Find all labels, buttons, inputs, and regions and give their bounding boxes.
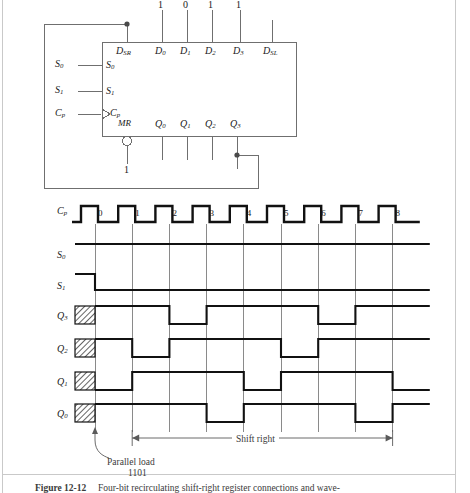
data-input-value-d3: 1 xyxy=(236,0,241,10)
pin-label-dsr: DSR xyxy=(116,46,131,57)
timing-gridlines xyxy=(95,224,393,432)
circuit-diagram xyxy=(0,0,470,200)
timing-row-label-q2: Q2 xyxy=(57,344,68,355)
pin-label-d2: D2 xyxy=(205,46,216,57)
timing-row-label-q3: Q3 xyxy=(57,311,68,322)
clock-pulse-number-5: 5 xyxy=(284,209,289,218)
timing-diagram xyxy=(0,198,470,493)
mr-bubble-icon xyxy=(123,137,132,146)
timing-row-label-q0: Q0 xyxy=(57,409,68,420)
timing-waveforms xyxy=(72,206,430,422)
feedback-wire xyxy=(44,24,258,188)
annotation-shift-right: Shift right xyxy=(232,435,279,445)
data-input-value-d2: 1 xyxy=(208,0,213,10)
annotation-parallel-load: Parallel load xyxy=(107,458,155,468)
figure-caption-label: Figure 12-12 xyxy=(35,483,86,493)
clock-pulse-number-7: 7 xyxy=(358,209,363,218)
timing-row-label-s1: S1 xyxy=(57,281,65,292)
data-input-value-d1: 0 xyxy=(183,0,188,10)
pin-label-d1: D1 xyxy=(180,46,191,57)
pin-label-d3: D3 xyxy=(233,46,244,57)
pin-label-q3: Q3 xyxy=(230,119,241,130)
hatch-block-q1 xyxy=(75,372,95,390)
clock-triangle-icon xyxy=(102,109,110,119)
clock-pulse-number-6: 6 xyxy=(321,209,326,218)
pin-label-d0: D0 xyxy=(155,46,166,57)
input-label-cp: Cp xyxy=(55,108,65,119)
pin-label-q1: Q1 xyxy=(180,119,191,130)
waveform-s1 xyxy=(75,274,430,290)
waveform-q2 xyxy=(95,339,430,357)
mr-tie-value: 1 xyxy=(124,165,129,175)
pin-label-s1: S1 xyxy=(106,86,114,97)
figure-page: 1 0 1 1 DSR D0 D1 D2 D3 DSL S0 S1 Cp MR … xyxy=(0,0,470,493)
waveform-q3 xyxy=(95,306,430,324)
timing-hatch-regions xyxy=(75,306,95,422)
timing-row-label-cp: Cp xyxy=(57,206,67,217)
clock-pulse-number-8: 8 xyxy=(396,209,401,218)
input-label-s0: S0 xyxy=(55,59,63,70)
pin-label-s0: S0 xyxy=(106,60,114,71)
clock-pulse-number-2: 2 xyxy=(172,209,177,218)
clock-pulse-number-1: 1 xyxy=(135,209,140,218)
hatch-block-q2 xyxy=(75,339,95,357)
pin-label-q2: Q2 xyxy=(205,119,216,130)
data-input-value-d0: 1 xyxy=(158,0,163,10)
waveform-q0 xyxy=(95,404,430,422)
hatch-block-q0 xyxy=(75,404,95,422)
timing-row-label-s0: S0 xyxy=(57,250,65,261)
hatch-block-q3 xyxy=(75,306,95,324)
pin-label-q0: Q0 xyxy=(155,119,166,130)
clock-pulse-number-3: 3 xyxy=(210,209,215,218)
figure-caption-text: Four-bit recirculating shift-right regis… xyxy=(98,483,340,493)
timing-row-label-q1: Q1 xyxy=(57,377,68,388)
clock-pulse-number-0: 0 xyxy=(98,209,103,218)
junction-dot-q3 xyxy=(234,152,239,157)
junction-dot-dsr xyxy=(124,21,129,26)
annotation-parallel-load-value: 1101 xyxy=(128,469,147,479)
waveform-q1 xyxy=(95,372,430,390)
clock-pulse-number-4: 4 xyxy=(247,209,252,218)
pin-label-mr: MR xyxy=(118,119,131,128)
input-label-s1: S1 xyxy=(55,85,63,96)
pin-label-dsl: DSL xyxy=(263,46,277,57)
